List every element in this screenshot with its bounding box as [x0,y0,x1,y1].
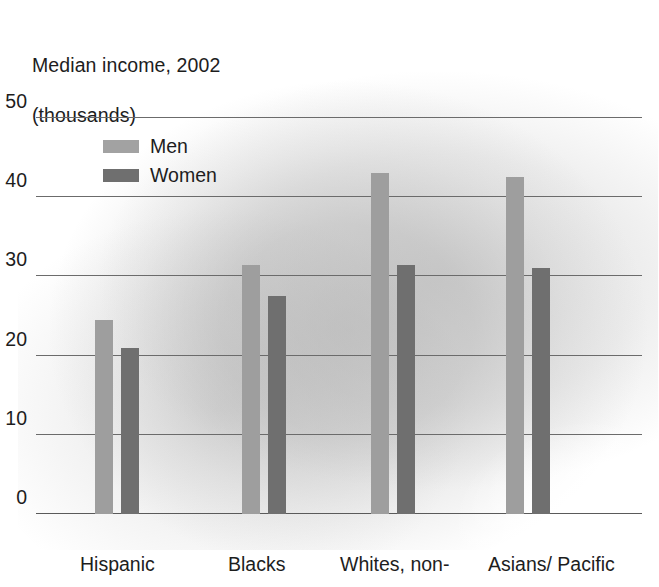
chart-title-line1: Median income, 2002 [32,54,220,76]
legend-label-women: Women [150,166,217,186]
bar-women-1 [268,296,286,514]
gridline-50: 50 [36,117,642,118]
bar-men-2 [371,173,389,514]
chart-legend: Men Women [103,132,217,190]
chart-figure: Median income, 2002 (thousands) 50403020… [0,0,659,587]
category-label-whites-non-hispanic: Whites, non- Hispanic1 [340,527,449,587]
bar-women-2 [397,265,415,514]
y-axis-tick-50: 50 [5,90,27,113]
category-label-line1: Asians/ Pacific [488,553,615,575]
legend-swatch-men-icon [103,140,139,153]
bar-women-3 [532,268,550,514]
category-label-hispanic-origin: Hispanic origin [80,527,155,587]
legend-swatch-women-icon [103,169,139,182]
gridline-30: 30 [36,275,642,276]
y-axis-tick-10: 10 [5,407,27,430]
y-axis-tick-30: 30 [5,248,27,271]
category-label-line1: Whites, non- [340,553,449,575]
category-label-blacks: Blacks [228,527,285,577]
category-label-asians-pacific-islanders: Asians/ Pacific Islanders2 [488,527,615,587]
bar-men-0 [95,320,113,514]
bar-men-3 [506,177,524,514]
bar-men-1 [242,265,260,514]
gridline-40: 40 [36,196,642,197]
y-axis-tick-20: 20 [5,327,27,350]
y-axis-tick-40: 40 [5,169,27,192]
category-label-line1: Blacks [228,553,285,575]
legend-label-men: Men [150,137,188,157]
bar-women-0 [121,348,139,514]
legend-item-men: Men [103,132,217,161]
chart-title: Median income, 2002 (thousands) [32,28,220,128]
legend-item-women: Women [103,161,217,190]
y-axis-tick-0: 0 [16,486,27,509]
category-label-line1: Hispanic [80,553,155,575]
